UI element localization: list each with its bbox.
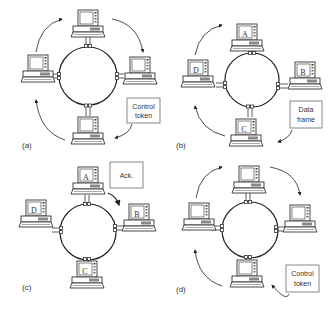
ring bbox=[225, 53, 279, 107]
station-b: B bbox=[122, 204, 156, 231]
callout-line-1: Ack. bbox=[120, 172, 134, 179]
ring bbox=[222, 202, 278, 258]
station-letter: C bbox=[241, 125, 246, 134]
station-bottom bbox=[230, 260, 264, 287]
station-letter: D bbox=[31, 206, 37, 215]
arrow-callout-to-bottom bbox=[115, 124, 132, 138]
station-top bbox=[232, 166, 266, 193]
arrow-top-to-right bbox=[270, 167, 300, 195]
station-letter: B bbox=[300, 68, 305, 77]
ring bbox=[60, 204, 116, 260]
panel-d: Control token (d) bbox=[176, 166, 319, 297]
panel-b: A B C D Data frame (b) bbox=[176, 24, 322, 150]
station-a: A bbox=[230, 24, 264, 51]
station-letter: B bbox=[134, 210, 139, 219]
station-letter: C bbox=[82, 267, 87, 276]
callout-line-2: token bbox=[294, 280, 311, 287]
arrow-top-to-right bbox=[112, 19, 143, 52]
arrow-left-to-top bbox=[196, 167, 222, 198]
callout-line-1: Data bbox=[299, 106, 314, 113]
callout-control-token: Control token bbox=[286, 265, 319, 292]
station-d: D bbox=[181, 60, 215, 87]
ring-connectors bbox=[213, 193, 285, 266]
arrow-bottom-to-left bbox=[36, 100, 65, 140]
arrow-top-to-right bbox=[108, 193, 119, 205]
station-top bbox=[71, 10, 105, 37]
station-left bbox=[182, 203, 216, 230]
panel-c: A B C D Ack. (c) bbox=[19, 162, 156, 292]
ring-connectors bbox=[216, 44, 288, 117]
arrow-left-to-top bbox=[36, 19, 62, 52]
station-right bbox=[123, 57, 157, 84]
callout-line-2: frame bbox=[297, 116, 315, 123]
station-left bbox=[21, 55, 55, 82]
station-c: C bbox=[70, 261, 104, 288]
callout-data-frame: Data frame bbox=[290, 101, 322, 128]
callout-line-1: Control bbox=[132, 103, 155, 110]
station-a: A bbox=[71, 167, 105, 194]
callout-line-2: token bbox=[135, 112, 152, 119]
ring-connectors bbox=[50, 37, 124, 116]
panel-label: (d) bbox=[176, 285, 186, 294]
station-letter: D bbox=[193, 66, 199, 75]
panel-label: (c) bbox=[22, 283, 32, 292]
arrow-left-to-top bbox=[195, 25, 222, 55]
panel-label: (a) bbox=[22, 141, 32, 150]
station-letter: A bbox=[83, 173, 89, 182]
panel-a: Control token (a) bbox=[21, 10, 160, 150]
ring bbox=[59, 47, 117, 105]
arrow-bottom-to-left bbox=[195, 106, 225, 136]
ring-connectors bbox=[52, 195, 124, 268]
station-right bbox=[283, 205, 317, 232]
station-bottom bbox=[71, 117, 105, 144]
callout-ack: Ack. bbox=[110, 162, 143, 188]
station-d: D bbox=[19, 200, 53, 227]
arrow-bottom-to-left bbox=[195, 250, 222, 286]
station-letter: A bbox=[242, 30, 248, 39]
arrow-callout-to-bottom bbox=[278, 130, 292, 142]
station-b: B bbox=[288, 62, 322, 89]
station-c: C bbox=[229, 119, 263, 146]
token-ring-diagram: Control token (a) A B C bbox=[0, 0, 334, 311]
callout-control-token: Control token bbox=[127, 98, 160, 123]
panel-label: (b) bbox=[176, 141, 186, 150]
callout-line-1: Control bbox=[291, 270, 314, 277]
